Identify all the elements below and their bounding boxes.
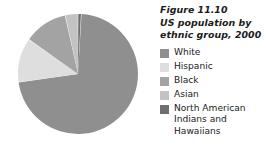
legend-item-asian[interactable]: Asian xyxy=(160,89,266,102)
legend-swatch-icon-white xyxy=(160,49,169,58)
figure-info-panel: Figure 11.10 US population by ethnic gro… xyxy=(160,0,266,158)
legend-swatch-icon-black xyxy=(160,77,169,86)
legend-label-asian: Asian xyxy=(174,89,199,101)
pie-chart-panel xyxy=(0,0,160,158)
legend-swatch-icon-asian xyxy=(160,91,169,100)
legend-item-hispanic[interactable]: Hispanic xyxy=(160,61,266,74)
legend-label-north-american-indians-and-hawaiians: North American Indians and Hawaiians xyxy=(174,103,246,138)
figure-container: Figure 11.10 US population by ethnic gro… xyxy=(0,0,266,158)
legend-label-hispanic: Hispanic xyxy=(174,61,213,73)
legend-label-white: White xyxy=(174,47,200,59)
pie-slices xyxy=(18,14,138,134)
legend: White Hispanic Black Asian North America… xyxy=(160,47,266,138)
figure-title: Figure 11.10 US population by ethnic gro… xyxy=(160,4,266,42)
legend-item-white[interactable]: White xyxy=(160,47,266,60)
legend-item-north-american-indians-and-hawaiians[interactable]: North American Indians and Hawaiians xyxy=(160,103,266,138)
legend-swatch-icon-hispanic xyxy=(160,63,169,72)
legend-item-black[interactable]: Black xyxy=(160,75,266,88)
legend-swatch-icon-north-american-indians-and-hawaiians xyxy=(160,105,169,114)
pie-chart xyxy=(0,0,160,158)
legend-label-black: Black xyxy=(174,75,199,87)
